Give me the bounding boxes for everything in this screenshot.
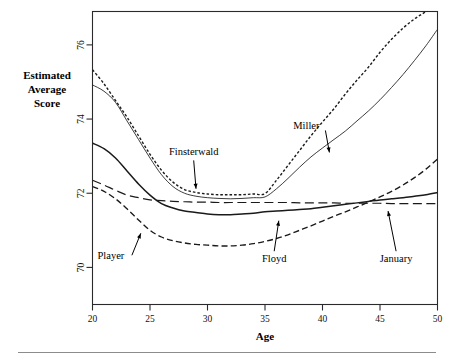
annotation-label: January (380, 253, 413, 264)
annotation-label: Miller (293, 120, 320, 131)
y-axis-title-line-3: Score (34, 97, 60, 109)
x-axis-title: Age (256, 330, 274, 342)
figure-background (0, 0, 454, 360)
annotation-label: Floyd (262, 253, 287, 264)
annotation-label: Player (97, 250, 124, 261)
x-tick-label: 50 (433, 314, 443, 324)
y-axis-title-line-1: Estimated (23, 69, 71, 81)
x-tick-label: 30 (203, 314, 213, 324)
y-tick-label: 72 (77, 188, 87, 198)
y-tick-label: 74 (77, 114, 87, 124)
y-axis-title-line-2: Average (28, 83, 66, 95)
y-tick-label: 70 (77, 262, 87, 272)
x-tick-label: 25 (145, 314, 155, 324)
y-tick-label: 76 (77, 40, 87, 50)
x-tick-label: 45 (375, 314, 385, 324)
x-tick-label: 35 (260, 314, 270, 324)
annotation-label: Finsterwald (169, 146, 219, 157)
x-tick-label: 40 (318, 314, 328, 324)
x-tick-label: 20 (88, 314, 98, 324)
chart-figure: 70727476 20253035404550 FinsterwaldMille… (0, 0, 454, 360)
